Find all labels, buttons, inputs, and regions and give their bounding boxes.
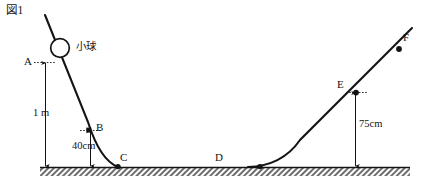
point-marker-b [86,128,91,133]
dimension-label-40cm: 40cm [72,141,95,152]
point-marker-e [353,90,359,96]
ground-hatching [40,168,410,176]
point-label-f: F [403,32,409,43]
dimension-label-1m: 1 m [33,108,49,119]
dimension-label-75cm: 75cm [359,119,382,130]
right-incline-track [248,28,412,167]
point-label-d: D [215,152,223,163]
point-marker-d [257,164,262,169]
ball-circle [51,39,70,58]
point-label-c: C [120,152,127,163]
figure-diagram: 図1 小球 A B C D E F 1 m 40cm 75cm [0,0,435,183]
ball-label: 小球 [76,41,96,52]
point-label-a: A [24,56,32,67]
point-marker-c [115,164,120,169]
point-label-e: E [337,79,344,90]
point-marker-f [396,46,402,52]
point-label-b: B [96,122,103,133]
figure-title: 図1 [6,5,24,17]
